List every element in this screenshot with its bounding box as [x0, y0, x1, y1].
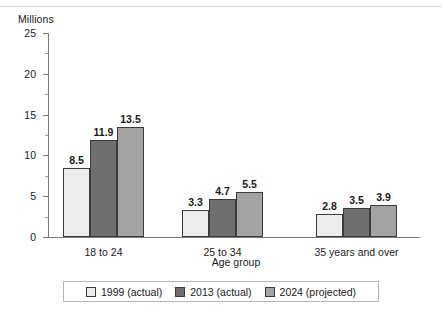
bar: 3.3: [182, 210, 209, 237]
y-axis-line: [48, 33, 49, 237]
legend-label: 2013 (actual): [190, 286, 251, 298]
y-tick-major: 5: [43, 196, 48, 197]
legend-item: 2013 (actual): [175, 286, 251, 298]
y-tick-label: 25: [24, 27, 36, 39]
bar-value-label: 11.9: [94, 126, 114, 138]
y-tick-major: 10: [43, 155, 48, 156]
y-tick-label: 15: [24, 109, 36, 121]
y-tick-minor: [45, 94, 48, 95]
bar: 3.5: [343, 208, 370, 237]
bar-chart-figure: Millions 0510152025 8.511.913.53.34.75.5…: [0, 0, 442, 309]
bar: 13.5: [117, 127, 144, 237]
plot-area: 0510152025 8.511.913.53.34.75.52.83.53.9…: [48, 33, 420, 237]
bar-value-label: 4.7: [215, 185, 230, 197]
y-tick-major: 15: [43, 115, 48, 116]
top-divider-rule: [0, 6, 442, 7]
bar-value-label: 3.9: [376, 191, 391, 203]
bar-value-label: 2.8: [322, 200, 337, 212]
bar-value-label: 8.5: [69, 154, 84, 166]
legend-label: 1999 (actual): [101, 286, 162, 298]
legend-swatch: [175, 287, 185, 297]
y-tick-major: 20: [43, 74, 48, 75]
legend-item: 2024 (projected): [265, 286, 356, 298]
bar-group: 3.34.75.5: [182, 33, 263, 237]
y-tick-major: 0: [43, 237, 48, 238]
y-tick-major: 25: [43, 33, 48, 34]
legend-label: 2024 (projected): [280, 286, 356, 298]
bar-value-label: 13.5: [120, 113, 140, 125]
bar-group: 8.511.913.5: [63, 33, 144, 237]
y-tick-minor: [45, 176, 48, 177]
bar: 8.5: [63, 168, 90, 237]
legend-swatch: [265, 287, 275, 297]
legend-item: 1999 (actual): [86, 286, 162, 298]
bar: 5.5: [236, 192, 263, 237]
x-axis-line: [48, 237, 420, 238]
y-tick-label: 0: [30, 231, 36, 243]
y-tick-label: 10: [24, 149, 36, 161]
chart-legend: 1999 (actual)2013 (actual)2024 (projecte…: [63, 281, 379, 302]
x-category-label: 35 years and over: [314, 246, 398, 258]
legend-swatch: [86, 287, 96, 297]
y-axis-unit-label: Millions: [18, 13, 54, 25]
bar: 3.9: [370, 205, 397, 237]
bar-value-label: 3.3: [188, 196, 203, 208]
y-tick-label: 20: [24, 68, 36, 80]
bar-group: 2.83.53.9: [316, 33, 397, 237]
y-tick-label: 5: [30, 190, 36, 202]
y-tick-minor: [45, 217, 48, 218]
x-category-label: 18 to 24: [85, 246, 123, 258]
bar: 11.9: [90, 140, 117, 237]
bar-value-label: 3.5: [349, 194, 364, 206]
bar-value-label: 5.5: [242, 178, 257, 190]
y-tick-minor: [45, 135, 48, 136]
bar: 2.8: [316, 214, 343, 237]
x-axis-title: Age group: [212, 256, 260, 268]
bar: 4.7: [209, 199, 236, 237]
y-tick-minor: [45, 53, 48, 54]
